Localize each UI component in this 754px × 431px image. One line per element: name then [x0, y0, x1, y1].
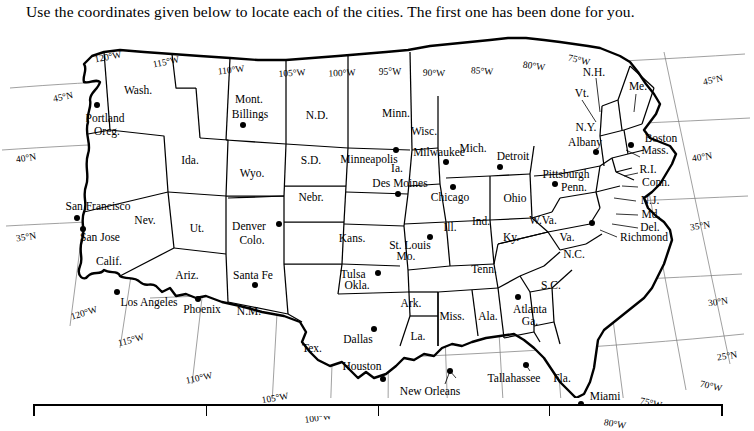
- city-label: St. Louis: [389, 239, 431, 251]
- city-label: Houston: [343, 360, 382, 372]
- state-label: Miss.: [439, 310, 464, 322]
- city-label: Miami: [590, 390, 621, 402]
- state-label: S.C.: [541, 279, 561, 291]
- city-label: Detroit: [497, 150, 530, 162]
- city-dot-detroit: [497, 164, 503, 170]
- answer-table-cell[interactable]: [35, 406, 207, 416]
- city-label: Chicago: [431, 191, 469, 203]
- city-dot-phoenix: [195, 296, 201, 302]
- graticule-label: 95°W: [379, 67, 401, 77]
- city-dot-chicago: [450, 184, 456, 190]
- city-label: New Orleans: [400, 385, 460, 397]
- state-label: Calif.: [96, 255, 122, 267]
- answer-table[interactable]: [33, 404, 723, 416]
- state-label: Tex.: [302, 342, 322, 354]
- city-label: Minneapolis: [340, 153, 398, 165]
- state-label: N.Y.: [576, 121, 597, 133]
- state-label: Ala.: [478, 310, 497, 322]
- city-label: Billings: [232, 108, 268, 120]
- state-label: Wisc.: [411, 125, 437, 137]
- state-label: Ariz.: [175, 269, 198, 281]
- city-dot-boston: [628, 142, 634, 148]
- city-label: Pittsburgh: [542, 168, 589, 180]
- city-label: Dallas: [343, 333, 372, 345]
- graticule-label: 80°W: [603, 417, 627, 431]
- city-dot-los-angeles: [114, 289, 120, 295]
- city-dot-san-francisco: [74, 215, 80, 221]
- city-dot-houston: [380, 376, 386, 382]
- instruction-text: Use the coordinates given below to locat…: [26, 2, 742, 22]
- state-label: Mo.: [397, 250, 416, 262]
- city-dot-atlanta: [515, 294, 521, 300]
- answer-table-cell[interactable]: [379, 406, 551, 416]
- graticule-label: 100°W: [328, 68, 355, 79]
- state-label: Mass.: [641, 144, 668, 156]
- state-label: Okla.: [344, 279, 369, 291]
- city-label: Tulsa: [340, 268, 365, 280]
- city-label: San Francisco: [66, 200, 131, 212]
- state-label: Ky.: [503, 231, 519, 243]
- state-label: W.Va.: [529, 214, 557, 226]
- state-label: Va.: [559, 231, 574, 243]
- city-label: Boston: [645, 132, 678, 144]
- state-label: Conn.: [642, 176, 670, 188]
- state-label: Colo.: [239, 234, 264, 246]
- city-dot-denver: [276, 221, 282, 227]
- state-label: Oreg.: [94, 125, 120, 137]
- city-label: Portland: [86, 112, 125, 124]
- graticule-label: 105°W: [278, 67, 306, 79]
- state-label: Ohio: [504, 192, 527, 204]
- city-label: Santa Fe: [233, 269, 273, 281]
- city-label: Richmond: [620, 231, 668, 243]
- state-label: Mont.: [235, 93, 263, 105]
- city-dot-richmond: [589, 220, 595, 226]
- city-label: Albany: [568, 136, 602, 148]
- city-dot-dallas: [371, 326, 377, 332]
- state-label: Kans.: [339, 232, 366, 244]
- city-dot-pittsburgh: [552, 181, 558, 187]
- state-label: Minn.: [382, 107, 410, 119]
- us-map: 120°W115°W110°W105°W100°W95°W90°W85°W80°…: [0, 26, 754, 398]
- answer-table-cell[interactable]: [207, 406, 379, 416]
- state-label: Wyo.: [240, 167, 265, 179]
- city-label: Denver: [232, 220, 266, 232]
- state-label: Penn.: [561, 181, 587, 193]
- city-dot-tallahassee: [523, 362, 529, 368]
- city-dot-new-orleans: [447, 368, 453, 374]
- state-label: Ind.: [472, 215, 490, 227]
- state-label: Ark.: [401, 297, 422, 309]
- state-label: N.J.: [641, 194, 660, 206]
- graticule-label: 90°W: [423, 68, 446, 79]
- state-label: S.D.: [301, 154, 321, 166]
- city-label: Phoenix: [183, 303, 221, 315]
- state-label: Me.: [629, 80, 647, 92]
- city-label: Los Angeles: [120, 296, 177, 308]
- city-dot-portland: [94, 102, 100, 108]
- city-dot-san-jose: [80, 226, 86, 232]
- state-label: N.D.: [306, 109, 328, 121]
- city-label: Des Moines: [372, 177, 427, 189]
- city-label: Tallahassee: [488, 372, 541, 384]
- city-label: San Jose: [80, 231, 120, 243]
- state-label: Ut.: [190, 222, 204, 234]
- answer-table-cell[interactable]: [550, 406, 721, 416]
- state-label: Ida.: [181, 154, 199, 166]
- city-dot-des-moines: [395, 191, 401, 197]
- city-label: Atlanta: [513, 303, 547, 315]
- state-label: Md.: [642, 208, 661, 220]
- graticule-label: 85°W: [471, 65, 494, 77]
- city-dot-st-louis: [427, 234, 433, 240]
- state-label: Nev.: [134, 214, 155, 226]
- state-label: Tenn.: [471, 263, 497, 275]
- city-dot-santa-fe: [252, 282, 258, 288]
- city-dot-milwaukee: [443, 159, 449, 165]
- city-dot-albany: [593, 149, 599, 155]
- state-label: N.M.: [237, 305, 261, 317]
- state-label: La.: [410, 330, 425, 342]
- city-dot-billings: [240, 122, 246, 128]
- city-label: Milwaukee: [413, 146, 465, 158]
- state-label: Vt.: [575, 87, 589, 99]
- state-label: Ga.: [522, 315, 538, 327]
- state-label: Wash.: [124, 84, 152, 96]
